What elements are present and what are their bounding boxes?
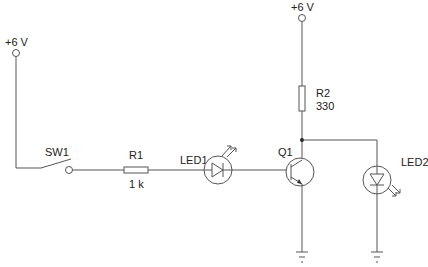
led1-label: LED1 [180,154,208,166]
r2-value: 330 [316,100,334,112]
ground-q1-icon [296,252,308,262]
resistor-icon [299,86,305,111]
supply-left: +6 V [5,36,29,57]
led2: LED2 [363,156,428,196]
transistor-q1: Q1 [278,146,314,186]
r2-label: R2 [316,87,330,99]
switch-sw1: SW1 [41,146,73,174]
q1-label: Q1 [278,146,293,158]
resistor-r2: R2 330 [299,86,334,112]
circuit-diagram: +6 V SW1 R1 1 k LED1 +6 V [0,0,428,267]
r1-value: 1 k [129,178,144,190]
switch-contact-icon [66,167,73,174]
led2-label: LED2 [401,156,428,168]
supply-right-label: +6 V [291,1,315,13]
supply-terminal-icon [13,50,20,57]
resistor-r1: R1 1 k [124,149,148,190]
led1: LED1 [180,146,236,184]
supply-terminal-icon [299,15,306,22]
light-in-arrows-icon [222,146,236,157]
switch-arm-icon [41,159,71,168]
supply-left-label: +6 V [5,36,29,48]
sw1-label: SW1 [45,146,69,158]
r1-label: R1 [129,149,143,161]
resistor-icon [124,167,148,173]
supply-right: +6 V [291,1,315,22]
ground-led2-icon [371,252,383,262]
